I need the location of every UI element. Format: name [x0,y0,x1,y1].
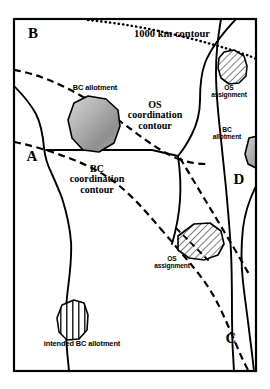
map-canvas [0,0,270,389]
polygon-intended-bc-allotment [57,300,88,340]
polygon-os-assignment-upper-right [218,50,247,84]
schematic-map-figure: B A D C 1000 km contour OS coordination … [0,0,270,389]
